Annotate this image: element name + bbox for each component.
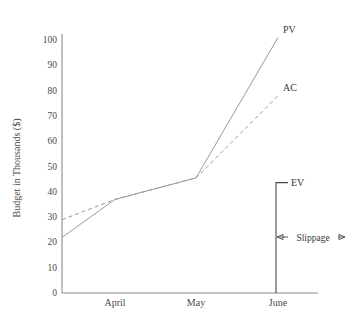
x-tick-label-june: June (269, 297, 288, 308)
annotation-label-ev: EV (291, 177, 305, 188)
y-tick-label-80: 80 (48, 86, 58, 96)
y-tick-label-30: 30 (48, 212, 58, 222)
x-tick-label-april: April (104, 297, 125, 308)
series-line-ac (62, 96, 278, 220)
y-axis-title: Budget in Thousands ($) (11, 119, 23, 218)
y-tick-label-70: 70 (48, 111, 58, 121)
chart-container: Budget in Thousands ($) 0 10 20 30 40 50… (0, 0, 361, 328)
budget-line-chart: Budget in Thousands ($) 0 10 20 30 40 50… (0, 0, 361, 328)
annotation-label-slippage: Slippage (296, 233, 329, 243)
y-tick-label-20: 20 (48, 237, 58, 247)
x-tick-label-may: May (187, 297, 205, 308)
y-tick-label-90: 90 (48, 60, 58, 70)
y-tick-label-100: 100 (43, 35, 58, 45)
y-tick-label-60: 60 (48, 136, 58, 146)
y-tick-label-10: 10 (48, 263, 58, 273)
y-tick-label-50: 50 (48, 162, 58, 172)
y-tick-label-0: 0 (52, 288, 57, 298)
series-line-pv (62, 38, 278, 238)
y-tick-label-40: 40 (48, 187, 58, 197)
series-label-ac: AC (283, 82, 297, 93)
series-label-pv: PV (283, 24, 297, 35)
